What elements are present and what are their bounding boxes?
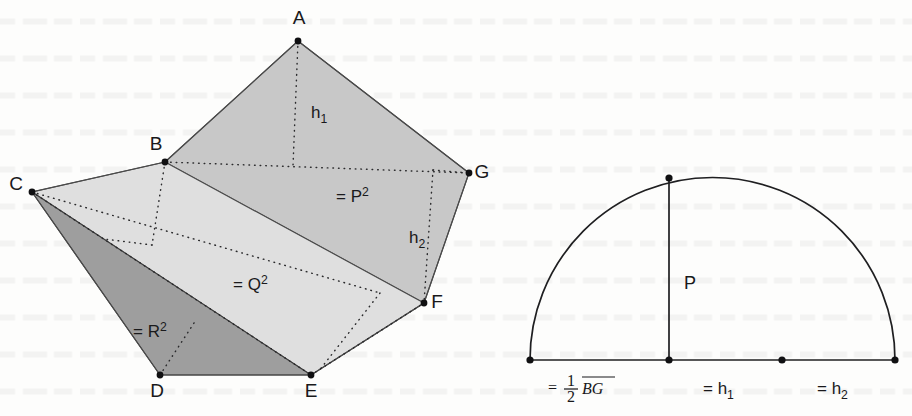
area-label-p-prefix: = P	[336, 187, 362, 206]
height-label-h1-sub: 1	[320, 112, 327, 126]
figure-page: A B C D E F G h1 h2 = P2 = Q2 = R2	[0, 0, 912, 416]
vertex-label-D: D	[150, 380, 164, 401]
altitude-label-p: P	[684, 273, 696, 293]
semicircle-arc	[530, 178, 895, 360]
segment-label-half-bg-segment: BG	[582, 380, 604, 397]
vertex-dot-D	[157, 372, 164, 379]
segment-label-half-bg: = 1 2 BG	[548, 372, 615, 405]
vertex-label-G: G	[475, 161, 490, 182]
segment-label-h1: = h1	[703, 379, 734, 402]
segment-label-h2-sub: 2	[841, 388, 848, 402]
arc-point-dot	[665, 174, 672, 181]
baseline-dot-foot-of-p	[665, 356, 672, 363]
vertex-label-E: E	[305, 380, 318, 401]
height-label-h2-base: h	[409, 228, 418, 247]
vertex-label-A: A	[293, 7, 306, 28]
area-label-r-exponent: 2	[160, 320, 167, 334]
area-label-q-prefix: = Q	[233, 275, 261, 294]
vertex-label-C: C	[9, 173, 23, 194]
segment-label-h2-base: = h	[817, 379, 841, 398]
baseline-dot-right-end	[891, 356, 898, 363]
segment-label-h1-base: = h	[703, 379, 727, 398]
baseline-dot-mid-mark	[778, 356, 785, 363]
area-label-p-exponent: 2	[362, 185, 369, 199]
vertex-dot-F	[421, 300, 428, 307]
left-diagram: A B C D E F G h1 h2 = P2 = Q2 = R2	[9, 7, 489, 401]
area-label-r-prefix: = R	[133, 322, 160, 341]
vertex-dot-C	[29, 189, 36, 196]
segment-label-half-bg-denominator: 2	[567, 388, 575, 405]
segment-label-half-bg-equals: =	[548, 379, 557, 396]
baseline-dot-left-end	[526, 356, 533, 363]
segment-label-h2: = h2	[817, 379, 848, 402]
area-label-q-exponent: 2	[261, 273, 268, 287]
vertex-dot-E	[308, 372, 315, 379]
vertex-dot-G	[466, 170, 473, 177]
segment-label-half-bg-numerator: 1	[567, 372, 575, 389]
vertex-dot-B	[162, 159, 169, 166]
right-diagram: P = 1 2 BG = h1 = h2	[526, 174, 898, 405]
height-label-h2-sub: 2	[418, 237, 425, 251]
height-label-h1-base: h	[311, 103, 320, 122]
vertex-dot-A	[295, 38, 302, 45]
segment-label-h1-sub: 1	[727, 388, 734, 402]
geometry-figure: A B C D E F G h1 h2 = P2 = Q2 = R2	[0, 0, 912, 416]
vertex-label-F: F	[431, 291, 443, 312]
vertex-label-B: B	[150, 133, 163, 154]
